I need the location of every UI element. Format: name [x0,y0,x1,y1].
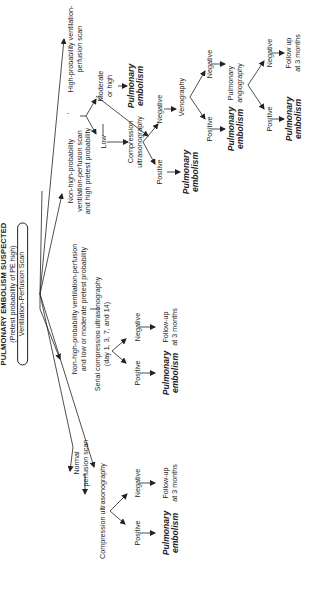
serial-compression-us-node: Serial compression ultrasonography (day … [94,277,111,392]
ang-positive-label: Positive [266,106,275,131]
angiography-node: Pulmonary angiography [227,63,244,103]
serial-negative-label: Negative [134,313,143,341]
ven-pe-outcome: Pulmonary embolism [227,107,246,151]
ang-negative-label: Negative [266,39,275,67]
root-node: PULMONARY EMBOLISM SUSPECTED (Pretest pr… [0,223,28,366]
serial-positive-label: Positive [134,360,143,385]
normal-followup-outcome: Follow-up at 3 months [162,464,179,502]
diagram-subtitle: (Pretest probability of PE high) [9,223,18,366]
high-prob-node: High-probability ventilation- perfusion … [67,6,84,93]
normal-compression-us-node: Compression ultrasonography [99,463,108,559]
moderate-pe-outcome: Pulmonary embolism [127,64,146,108]
diagnostic-flowchart: PULMONARY EMBOLISM SUSPECTED (Pretest pr… [0,0,309,589]
normal-perfusion-node: Normal perfusion scan [73,440,90,487]
nonhigh-low-node: Non-high-probability ventilation-perfusi… [71,244,88,375]
serial-followup-outcome: Follow-up at 3 months [162,308,179,346]
ven-positive-label: Positive [206,116,215,141]
cu-pe-outcome: Pulmonary embolism [182,150,201,194]
cu-positive-label: Positive [156,159,165,184]
normal-positive-label: Positive [134,520,143,545]
cu-negative-label: Negative [156,95,165,123]
connector-arrows [0,0,309,589]
root-test-box: Ventilation-Perfusion Scan [17,223,28,366]
ang-followup-outcome: Follow up at 3 months [285,34,302,72]
serial-pe-outcome: Pulmonary embolism [162,351,181,395]
ang-pe-outcome: Pulmonary embolism [285,97,304,141]
nonhigh-high-node: Non-high-probability ventilation-perfusi… [67,128,93,214]
low-label: Low [100,135,109,148]
ven-negative-label: Negative [206,50,215,78]
high-compression-us-node: Compression ultrasonography [127,116,144,168]
venography-node: Venography [178,78,187,116]
normal-negative-label: Negative [134,469,143,497]
moderate-high-label: Moderate or high [97,71,114,101]
normal-pe-outcome: Pulmonary embolism [162,511,181,555]
